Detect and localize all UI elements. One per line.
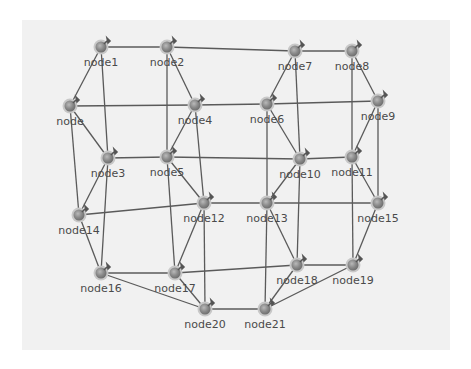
graph-node-node15[interactable]: node15 [357,194,398,225]
node-label: node3 [91,167,125,180]
node-label: node4 [178,114,212,127]
node-label: node6 [250,113,284,126]
edge-node4-node5 [167,105,195,157]
graph-node-node18[interactable]: node18 [276,256,317,287]
node-label: node9 [361,110,395,123]
edge-node5-node12 [167,157,204,203]
node-label: node7 [278,60,312,73]
node-label: node11 [331,166,372,179]
graph-node-node10[interactable]: node10 [279,150,320,181]
edge-node8-node9 [352,51,378,101]
graph-node-node14[interactable]: node14 [58,206,99,237]
graph-node-node2[interactable]: node2 [150,38,184,69]
graph-node-node19[interactable]: node19 [332,256,373,287]
network-graph: nodenode1node2node3node4node5node6node7n… [0,0,471,369]
edge-node18-node21 [265,265,297,309]
edge-node10-node13 [267,159,300,203]
edge-node0-node3 [70,106,108,158]
node-label: node5 [150,166,184,179]
node-label: node19 [332,274,373,287]
graph-node-node17[interactable]: node17 [154,264,195,295]
node-label: node1 [84,56,118,69]
edge-node10-node11 [300,157,352,159]
node-label: node12 [183,212,224,225]
node-label: node16 [80,282,121,295]
graph-node-node5[interactable]: node5 [150,148,184,179]
graph-node-node0[interactable]: node [56,97,84,128]
graph-node-node3[interactable]: node3 [91,149,125,180]
edge-node2-node7 [167,47,295,51]
edge-node19-node21 [265,265,353,309]
edge-node3-node5 [108,157,167,158]
edge-node4-node6 [195,104,267,105]
graph-node-node11[interactable]: node11 [331,148,372,179]
node-label: node15 [357,212,398,225]
graph-node-node9[interactable]: node9 [361,92,395,123]
edge-node11-node15 [352,157,378,203]
node-label: node8 [335,60,369,73]
node-label: node17 [154,282,195,295]
graph-node-node6[interactable]: node6 [250,95,284,126]
node-layer: nodenode1node2node3node4node5node6node7n… [56,38,398,331]
node-label: node14 [58,224,99,237]
graph-node-node13[interactable]: node13 [246,194,287,225]
graph-node-node12[interactable]: node12 [183,194,224,225]
edge-node0-node4 [70,105,195,106]
node-label: node18 [276,274,317,287]
graph-node-node21[interactable]: node21 [244,300,285,331]
node-label: node10 [279,168,320,181]
node-label: node21 [244,318,285,331]
node-label: node13 [246,212,287,225]
node-label: node20 [184,318,225,331]
graph-node-node1[interactable]: node1 [84,38,118,69]
graph-node-node16[interactable]: node16 [80,264,121,295]
edge-node17-node18 [175,265,297,273]
graph-node-node8[interactable]: node8 [335,42,369,73]
graph-node-node7[interactable]: node7 [278,42,312,73]
node-label: node [56,115,84,128]
edge-node6-node9 [267,101,378,104]
edge-node7-node6 [267,51,295,104]
edge-node5-node10 [167,157,300,159]
node-label: node2 [150,56,184,69]
graph-node-node4[interactable]: node4 [178,96,212,127]
